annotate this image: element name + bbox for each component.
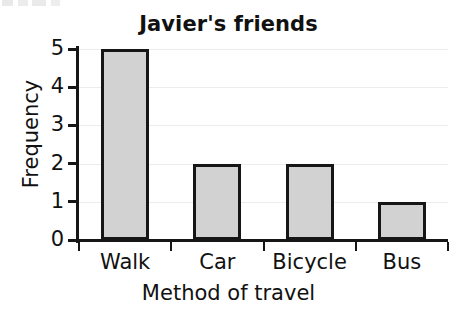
category-label-bicycle: Bicycle	[264, 250, 356, 274]
y-tick-label-3: 3	[38, 114, 64, 135]
y-tick-label-5: 5	[38, 38, 64, 59]
category-label-car: Car	[171, 250, 263, 274]
y-tick-label-1: 1	[38, 191, 64, 212]
chart-title: Javier's friends	[0, 12, 457, 36]
category-label-bus: Bus	[356, 250, 448, 274]
y-axis-line	[76, 46, 79, 243]
bar-car	[193, 164, 241, 240]
bar-bicycle	[286, 164, 334, 240]
y-tick-label-4: 4	[38, 76, 64, 97]
chart-page: Javier's friends Frequency Method of tra…	[0, 0, 457, 320]
y-tick-label-0: 0	[38, 229, 64, 250]
plot-area	[79, 49, 448, 240]
y-tick-2	[68, 162, 79, 165]
bar-walk	[101, 49, 149, 240]
y-tick-1	[68, 200, 79, 203]
y-tick-3	[68, 124, 79, 127]
scan-edge-artifact	[2, 0, 64, 6]
bar-bus	[378, 202, 426, 240]
y-tick-label-2: 2	[38, 153, 64, 174]
x-axis-title: Method of travel	[0, 281, 457, 305]
category-label-walk: Walk	[79, 250, 171, 274]
y-tick-5	[68, 48, 79, 51]
y-tick-4	[68, 86, 79, 89]
